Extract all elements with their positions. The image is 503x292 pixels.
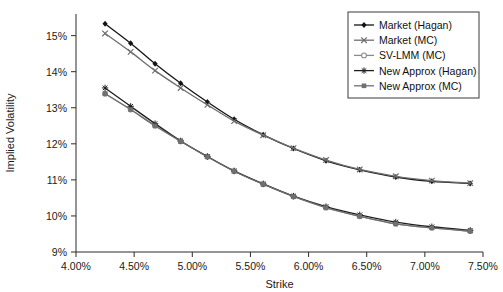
chart-legend: Market (Hagan)Market (MC)SV-LMM (MC)New … xyxy=(348,12,479,98)
data-point-square xyxy=(178,139,183,144)
y-tick-label: 13% xyxy=(46,102,67,114)
x-tick-label: 4.00% xyxy=(61,260,91,272)
data-point-x xyxy=(152,68,158,74)
data-point-square xyxy=(357,214,362,219)
data-point-x xyxy=(128,49,134,55)
series-4 xyxy=(103,91,473,233)
y-axis-group: 9%10%11%12%13%14%15% Implied Volatility xyxy=(4,14,76,258)
y-tick-label: 14% xyxy=(46,66,67,78)
legend-label: SV-LMM (MC) xyxy=(379,49,446,61)
y-tick-label: 9% xyxy=(52,246,67,258)
data-point-square xyxy=(205,155,210,160)
x-axis-ticks: 4.00%4.50%5.00%5.50%6.00%6.50%7.00%7.50% xyxy=(61,252,498,272)
implied-volatility-chart: 9%10%11%12%13%14%15% Implied Volatility … xyxy=(0,0,503,292)
series-line xyxy=(105,94,470,231)
x-axis-title: Strike xyxy=(265,278,293,290)
data-point-square xyxy=(362,84,367,89)
data-point-star xyxy=(361,67,367,73)
data-point-square xyxy=(468,229,473,234)
data-point-x xyxy=(102,31,108,37)
y-tick-label: 11% xyxy=(47,174,67,186)
legend-label: New Approx (MC) xyxy=(379,80,462,92)
data-point-square xyxy=(153,123,158,128)
data-point-square xyxy=(128,107,133,112)
x-tick-label: 7.00% xyxy=(410,260,440,272)
y-tick-label: 10% xyxy=(46,210,67,222)
data-point-square xyxy=(430,226,435,231)
data-point-star xyxy=(102,85,108,91)
x-axis-group: 4.00%4.50%5.00%5.50%6.00%6.50%7.00%7.50%… xyxy=(61,252,498,290)
x-tick-label: 5.00% xyxy=(177,260,207,272)
series-3 xyxy=(102,85,474,234)
data-point-square xyxy=(324,205,329,210)
legend-label: Market (Hagan) xyxy=(379,19,452,31)
data-point-square xyxy=(103,91,108,96)
x-tick-label: 6.50% xyxy=(352,260,382,272)
data-point-square xyxy=(393,222,398,227)
x-tick-label: 7.50% xyxy=(468,260,498,272)
y-tick-label: 15% xyxy=(46,30,67,42)
legend-label: New Approx (Hagan) xyxy=(379,65,476,77)
legend-label: Market (MC) xyxy=(379,34,437,46)
chart-container: 9%10%11%12%13%14%15% Implied Volatility … xyxy=(0,0,503,292)
data-point-circle-open xyxy=(362,53,367,58)
data-point-square xyxy=(232,169,237,174)
x-tick-label: 4.50% xyxy=(119,260,149,272)
y-axis-title: Implied Volatility xyxy=(4,93,16,172)
data-point-square xyxy=(291,194,296,199)
y-axis-ticks: 9%10%11%12%13%14%15% xyxy=(46,30,76,258)
y-tick-label: 12% xyxy=(46,138,67,150)
data-point-square xyxy=(261,182,266,187)
x-tick-label: 5.50% xyxy=(236,260,266,272)
series-line xyxy=(105,88,470,230)
series-line xyxy=(105,94,470,231)
x-tick-label: 6.00% xyxy=(294,260,324,272)
series-2 xyxy=(103,91,473,233)
